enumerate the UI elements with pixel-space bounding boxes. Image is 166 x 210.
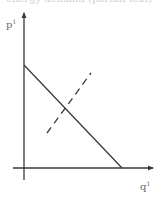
x-axis-label: q1: [140, 180, 150, 192]
dashed-line: [47, 73, 91, 133]
y-axis-label: p1: [6, 18, 16, 30]
solid-line: [24, 65, 122, 168]
diagram-canvas: p1 q1: [0, 0, 166, 210]
